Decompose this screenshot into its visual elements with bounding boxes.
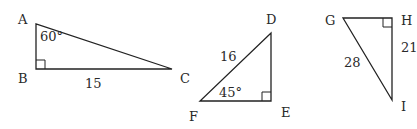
- vertex-label-d: D: [266, 12, 276, 27]
- angle-label-f: 45°: [219, 85, 242, 100]
- side-label-hi: 21: [401, 40, 417, 55]
- side-label-bc: 15: [85, 76, 102, 91]
- triangle-ghi: G H I 21 28: [325, 13, 417, 114]
- side-label-gi: 28: [344, 55, 361, 70]
- triangle-abc: A B C 60° 15: [17, 12, 190, 91]
- right-angle-marker-e: [262, 92, 271, 101]
- right-angle-marker-h: [383, 18, 392, 27]
- triangle-def: D E F 16 45°: [189, 12, 291, 124]
- vertex-label-c: C: [180, 71, 190, 86]
- side-label-df: 16: [220, 49, 237, 64]
- vertex-label-f: F: [189, 109, 198, 124]
- vertex-label-a: A: [17, 12, 28, 27]
- vertex-label-h: H: [401, 13, 412, 28]
- vertex-label-i: I: [401, 99, 406, 114]
- vertex-label-e: E: [281, 105, 291, 120]
- vertex-label-g: G: [325, 13, 335, 28]
- right-angle-marker-b: [36, 60, 45, 69]
- angle-label-a: 60°: [40, 29, 63, 44]
- vertex-label-b: B: [18, 71, 28, 86]
- triangles-diagram: A B C 60° 15 D E F 16 45° G H I 21 28: [0, 0, 417, 129]
